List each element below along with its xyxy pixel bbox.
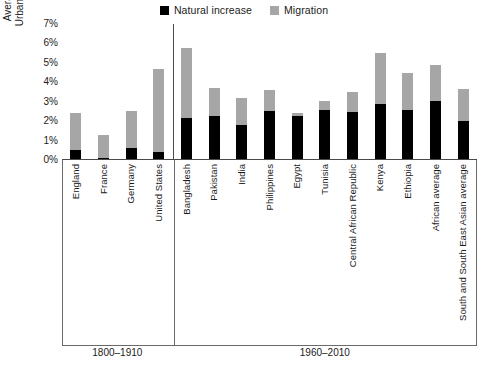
category-label: India — [237, 164, 247, 185]
bar-segment-migration — [347, 92, 358, 112]
bar-segment-natural-increase — [375, 104, 386, 160]
bar-slot — [90, 24, 118, 160]
category-label-slot: Tunisia — [311, 162, 339, 322]
bar-slot — [62, 24, 90, 160]
x-axis-line — [62, 159, 477, 160]
bar-segment-migration — [430, 65, 441, 101]
stacked-bar[interactable] — [402, 73, 413, 160]
y-tick-label: 7% — [44, 19, 58, 29]
bar-slot — [173, 24, 201, 160]
category-label-slot: Egypt — [283, 162, 311, 322]
category-label: United States — [154, 164, 164, 222]
stacked-bar[interactable] — [292, 113, 303, 160]
bar-segment-natural-increase — [209, 116, 220, 160]
y-axis-title: Average Annual Urban Growth (%) — [2, 0, 28, 56]
bar-slot — [366, 24, 394, 160]
bar-segment-migration — [181, 48, 192, 118]
category-label: France — [99, 164, 109, 194]
bar-series-container — [62, 24, 477, 160]
category-label: Kenya — [375, 164, 385, 191]
period-label-1: 1960–2010 — [173, 347, 477, 358]
category-label-slot: Bangladesh — [173, 162, 201, 322]
category-label: Philippines — [265, 164, 275, 211]
stacked-bar[interactable] — [430, 65, 441, 160]
bar-segment-natural-increase — [402, 110, 413, 161]
bar-slot — [449, 24, 477, 160]
legend-label-natural-increase: Natural increase — [174, 4, 252, 16]
stacked-bar[interactable] — [319, 101, 330, 160]
category-label-slot: Germany — [117, 162, 145, 322]
category-label-slot: Central African Republic — [339, 162, 367, 322]
stacked-bar[interactable] — [375, 53, 386, 160]
category-label: Pakistan — [209, 164, 219, 201]
category-label-slot: African average — [422, 162, 450, 322]
legend-swatch-natural-increase — [160, 6, 169, 15]
y-tick-label: 0% — [44, 155, 58, 165]
legend-entry-natural-increase: Natural increase — [160, 4, 252, 16]
bar-segment-natural-increase — [458, 121, 469, 160]
bar-segment-migration — [126, 111, 137, 148]
y-tick-label: 2% — [44, 116, 58, 126]
bar-segment-natural-increase — [319, 110, 330, 161]
category-label: Germany — [126, 164, 136, 203]
bar-segment-migration — [153, 69, 164, 153]
bar-segment-migration — [264, 90, 275, 111]
stacked-bar[interactable] — [347, 92, 358, 160]
bar-segment-natural-increase — [347, 112, 358, 160]
bar-segment-natural-increase — [236, 125, 247, 160]
category-label: Bangladesh — [182, 164, 192, 215]
category-label: African average — [431, 164, 441, 231]
legend-swatch-migration — [270, 6, 279, 15]
stacked-bar[interactable] — [209, 88, 220, 160]
category-label-slot: South and South East Asian average — [449, 162, 477, 322]
bar-segment-migration — [375, 53, 386, 104]
bar-segment-migration — [402, 73, 413, 110]
bar-segment-natural-increase — [264, 111, 275, 160]
bar-slot — [283, 24, 311, 160]
bar-segment-migration — [458, 89, 469, 121]
stacked-bar[interactable] — [153, 69, 164, 160]
x-axis-category-labels: EnglandFranceGermanyUnited StatesBanglad… — [62, 162, 477, 322]
bar-slot — [228, 24, 256, 160]
bar-slot — [256, 24, 284, 160]
y-tick-label: 5% — [44, 58, 58, 68]
stacked-bar[interactable] — [98, 135, 109, 160]
plot-area: 0%1%2%3%4%5%6%7% — [62, 24, 477, 160]
legend-entry-migration: Migration — [270, 4, 328, 16]
bar-slot — [339, 24, 367, 160]
category-label-slot: India — [228, 162, 256, 322]
category-label: Egypt — [292, 164, 302, 189]
stacked-bar[interactable] — [236, 98, 247, 160]
stacked-bar[interactable] — [458, 89, 469, 160]
category-label-slot: United States — [145, 162, 173, 322]
category-label-slot: Ethiopia — [394, 162, 422, 322]
stacked-bar[interactable] — [126, 111, 137, 160]
bar-segment-migration — [319, 101, 330, 110]
legend-label-migration: Migration — [284, 4, 328, 16]
bar-segment-migration — [98, 135, 109, 158]
category-label: Tunisia — [320, 164, 330, 195]
bar-slot — [145, 24, 173, 160]
bar-segment-migration — [209, 88, 220, 116]
bar-segment-migration — [70, 113, 81, 150]
bar-slot — [422, 24, 450, 160]
group-separator-line — [173, 24, 174, 160]
category-label-slot: Pakistan — [200, 162, 228, 322]
category-label: South and South East Asian average — [458, 164, 468, 321]
chart-legend: Natural increaseMigration — [0, 4, 488, 16]
y-tick-label: 4% — [44, 77, 58, 87]
bar-segment-migration — [236, 98, 247, 125]
bar-slot — [394, 24, 422, 160]
bar-segment-natural-increase — [430, 101, 441, 160]
y-tick-label: 1% — [44, 136, 58, 146]
stacked-bar[interactable] — [70, 113, 81, 160]
stacked-bar[interactable] — [181, 48, 192, 160]
category-label: Ethiopia — [403, 164, 413, 199]
category-label-slot: Philippines — [256, 162, 284, 322]
category-label-slot: France — [90, 162, 118, 322]
category-label: Central African Republic — [348, 164, 358, 267]
category-label-slot: Kenya — [366, 162, 394, 322]
category-label-slot: England — [62, 162, 90, 322]
stacked-bar[interactable] — [264, 90, 275, 160]
y-tick-label: 6% — [44, 38, 58, 48]
